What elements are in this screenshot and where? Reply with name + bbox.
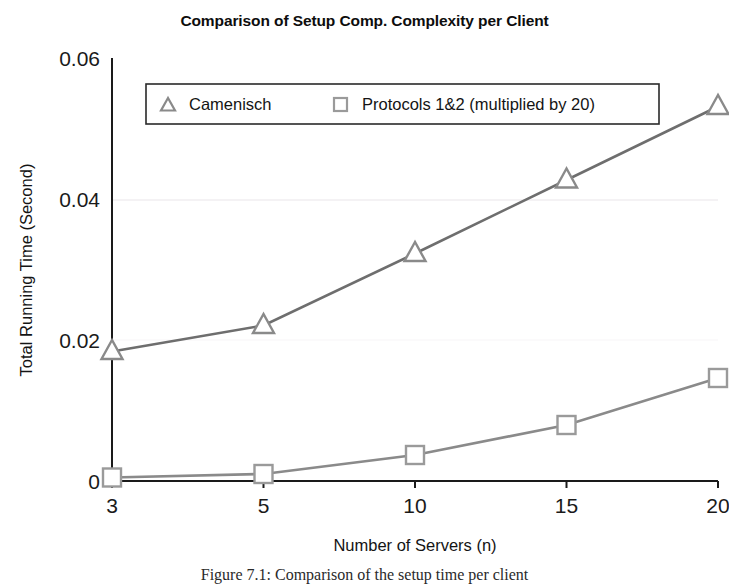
x-tick-label-20: 20	[706, 494, 729, 517]
x-axis-title: Number of Servers (n)	[333, 536, 496, 554]
figure-caption: Figure 7.1: Comparison of the setup time…	[0, 566, 729, 585]
x-tick-label-5: 5	[258, 494, 270, 517]
data-point-protocols-20	[709, 369, 727, 387]
data-point-protocols-15	[558, 416, 576, 434]
legend-label-protocols: Protocols 1&2 (multiplied by 20)	[362, 95, 595, 113]
data-point-protocols-5	[255, 465, 273, 483]
data-point-protocols-3	[103, 469, 121, 487]
x-tick-label-3: 3	[106, 494, 118, 517]
line-chart-plot: 0.06 0.04 0.02 0 3 5 10 15 20 Number of …	[0, 0, 729, 585]
data-point-protocols-10	[406, 446, 424, 464]
x-tick-label-15: 15	[555, 494, 578, 517]
data-point-camenisch-15	[556, 169, 577, 188]
legend-label-camenisch: Camenisch	[189, 95, 272, 113]
series-line-camenisch	[112, 107, 718, 352]
y-tick-label-0.02: 0.02	[59, 329, 100, 352]
data-point-camenisch-5	[253, 314, 274, 333]
legend-square-marker	[334, 98, 347, 111]
data-point-camenisch-20	[708, 95, 729, 114]
y-tick-label-0: 0	[88, 470, 100, 493]
data-point-camenisch-10	[405, 242, 426, 261]
x-tick-label-10: 10	[403, 494, 426, 517]
y-tick-label-0.06: 0.06	[59, 47, 100, 70]
figure-container: Comparison of Setup Comp. Complexity per…	[0, 0, 729, 585]
y-tick-label-0.04: 0.04	[59, 188, 100, 211]
y-axis-title: Total Running Time (Second)	[17, 164, 35, 377]
